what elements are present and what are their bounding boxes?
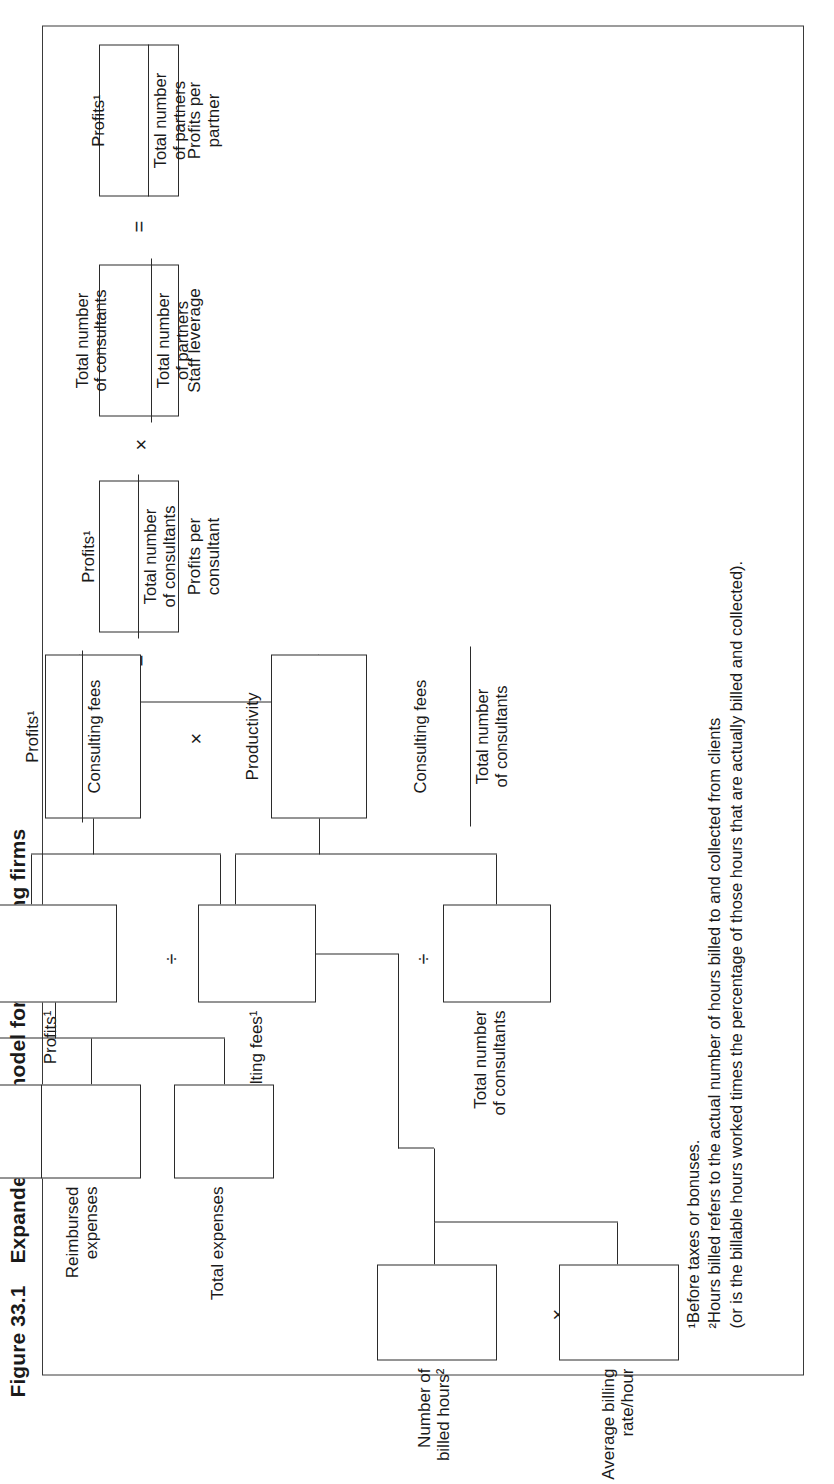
label-total-consultants: Total number of consultants — [471, 1010, 509, 1168]
node-consulting-fees — [0, 1084, 43, 1178]
node-avg-billing-rate — [559, 1264, 679, 1360]
connector-line — [319, 818, 320, 854]
formula-numerator: Consulting fees — [411, 646, 431, 826]
label-number-billed-hours: Number of billed hours² — [415, 1368, 453, 1484]
connector-line — [398, 953, 399, 1148]
label-staff-leverage: Staff leverage — [185, 264, 204, 416]
node-consulting-fees-1 — [198, 904, 316, 1002]
label-productivity: Productivity — [243, 654, 262, 818]
node-total-expenses — [174, 1084, 274, 1178]
label-profits-per-consultant: Profits per consultant — [185, 480, 223, 632]
label-avg-billing-rate: Average billing rate/hour — [599, 1368, 637, 1484]
formula-denominator: Total number of consultants — [138, 474, 179, 638]
figure-number: Figure 33.1 — [6, 1285, 29, 1397]
label-total-expenses: Total expenses — [208, 1186, 227, 1344]
node-productivity — [271, 654, 367, 818]
connector-line — [0, 1037, 225, 1038]
connector-line — [235, 854, 236, 904]
formula-numerator: Profits¹ — [79, 474, 99, 638]
connector-line — [235, 853, 497, 854]
formula-productivity: Consulting fees Total number of consulta… — [373, 646, 548, 826]
operator-divide-margin: ÷ — [161, 953, 181, 964]
operator-equals-top: = — [129, 220, 149, 232]
footnote-2: ²Hours billed refers to the actual numbe… — [704, 88, 725, 1328]
connector-line — [93, 818, 94, 854]
operator-times-leverage: × — [131, 438, 151, 450]
connector-line — [55, 1002, 56, 1038]
connector-line — [31, 854, 32, 904]
connector-line — [434, 1221, 618, 1222]
footnote-1: ¹Before taxes or bonuses. — [683, 88, 704, 1328]
node-number-billed-hours — [377, 1264, 497, 1360]
connector-line — [91, 1038, 92, 1084]
connector-line — [496, 854, 497, 904]
connector-line — [398, 1147, 434, 1148]
node-total-consultants — [443, 904, 551, 1002]
connector-line — [220, 854, 221, 904]
node-reimbursed-expenses — [41, 1084, 141, 1178]
formula-margin: Profits¹ Consulting fees — [0, 650, 141, 822]
connector-line — [617, 1222, 618, 1264]
operator-times-margin-productivity: × — [186, 732, 206, 744]
formula-denominator: Total number of consultants — [470, 646, 511, 826]
connector-line — [316, 953, 398, 954]
figure-title-text: Expanded profit model for consulting fir… — [6, 828, 29, 1263]
connector-line — [434, 1148, 435, 1222]
footnote-3: (or is the billable hours worked times t… — [726, 88, 747, 1328]
formula-denominator: Consulting fees — [82, 650, 104, 822]
formula-denominator: Total number of partners — [148, 44, 189, 196]
operator-divide-productivity: ÷ — [413, 953, 433, 964]
connector-line — [434, 1222, 435, 1264]
formula-numerator: Profits¹ — [23, 650, 43, 822]
formula-numerator: Profits¹ — [89, 44, 109, 196]
connector-line — [31, 853, 221, 854]
figure-frame: Profits¹ Total number of partners Profit… — [42, 25, 804, 1375]
node-profits — [0, 904, 117, 1002]
formula-numerator: Total number of consultants — [73, 258, 112, 422]
footnotes: ¹Before taxes or bonuses. ²Hours billed … — [683, 88, 747, 1328]
label-profits-per-partner: Profits per partner — [185, 44, 223, 196]
connector-line — [224, 1038, 225, 1084]
label-reimbursed-expenses: Reimbursed expenses — [63, 1186, 101, 1334]
